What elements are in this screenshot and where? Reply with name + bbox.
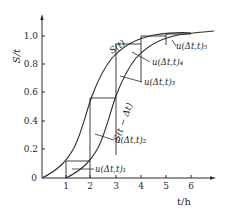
y-tick-0.4: 0.4 xyxy=(24,116,39,126)
x-tick-1: 1 xyxy=(63,181,69,191)
x-tick-4: 4 xyxy=(138,181,144,191)
x-axis-title: t/h xyxy=(177,196,191,207)
annotation-u5: u(Δt,t)₅ xyxy=(176,41,208,51)
annotation-u3: u(Δt,t)₃ xyxy=(144,77,176,87)
y-tick-0.8: 0.8 xyxy=(24,59,39,69)
annotation-u4: u(Δt,t)₄ xyxy=(152,57,184,67)
annotation-u1: u(Δt,t)₁ xyxy=(95,164,126,174)
axes xyxy=(40,14,216,180)
x-tick-3: 3 xyxy=(113,181,119,191)
y-tick-0: 0 xyxy=(31,173,37,183)
annotation-u2: u(Δt,t)₂ xyxy=(115,135,147,145)
s-curve xyxy=(42,33,191,178)
x-axis-arrow-icon xyxy=(210,176,216,179)
y-axis-arrow-icon xyxy=(40,14,43,20)
s-curve-diagram: 0 0.2 0.4 0.6 0.8 1.0 1 2 3 4 5 6 S/t t/… xyxy=(0,0,231,212)
x-tick-5: 5 xyxy=(163,181,169,191)
y-tick-1.0: 1.0 xyxy=(24,31,39,41)
y-tick-0.6: 0.6 xyxy=(24,87,39,97)
x-tick-6: 6 xyxy=(188,181,194,191)
y-tick-0.2: 0.2 xyxy=(24,144,38,154)
x-tick-labels: 1 2 3 4 5 6 xyxy=(63,181,194,191)
y-axis-title: S/t xyxy=(11,48,22,63)
y-tick-labels: 0 0.2 0.4 0.6 0.8 1.0 xyxy=(24,31,39,183)
shifted-s-curve xyxy=(66,31,214,178)
x-tick-2: 2 xyxy=(87,181,93,191)
